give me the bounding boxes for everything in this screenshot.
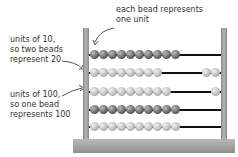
bead <box>126 122 135 131</box>
bead <box>202 68 211 77</box>
bead <box>144 68 153 77</box>
bead <box>135 122 144 131</box>
bead <box>135 50 144 59</box>
bead <box>108 122 117 131</box>
bead <box>162 105 171 114</box>
bead <box>126 105 135 114</box>
bead <box>99 105 108 114</box>
bead <box>90 105 99 114</box>
bead <box>144 87 153 96</box>
bead <box>211 87 220 96</box>
bead <box>126 87 135 96</box>
arrow-icon <box>0 0 238 157</box>
bead <box>144 105 153 114</box>
bead <box>108 105 117 114</box>
bead <box>90 87 99 96</box>
bead <box>162 50 171 59</box>
bead <box>153 87 162 96</box>
bead <box>90 50 99 59</box>
left-post <box>83 28 89 140</box>
bead <box>126 50 135 59</box>
bead <box>211 68 220 77</box>
bead <box>126 68 135 77</box>
bead <box>144 122 153 131</box>
bead <box>108 87 117 96</box>
bead <box>153 105 162 114</box>
bead <box>90 122 99 131</box>
bead <box>144 50 153 59</box>
bead <box>99 68 108 77</box>
bead <box>99 50 108 59</box>
bead <box>117 50 126 59</box>
bead <box>117 122 126 131</box>
bead <box>117 105 126 114</box>
right-post <box>221 28 227 140</box>
bead <box>171 50 180 59</box>
bead <box>162 87 171 96</box>
bead <box>171 122 180 131</box>
bead <box>108 50 117 59</box>
bead <box>135 105 144 114</box>
bead <box>90 68 99 77</box>
bead <box>117 68 126 77</box>
bead <box>171 105 180 114</box>
bead <box>99 87 108 96</box>
bead <box>135 68 144 77</box>
bead <box>162 122 171 131</box>
bead <box>108 68 117 77</box>
bead <box>99 122 108 131</box>
bead <box>135 87 144 96</box>
bead <box>153 122 162 131</box>
bead <box>153 68 162 77</box>
bead <box>153 50 162 59</box>
abacus-base <box>73 139 235 153</box>
bead <box>117 87 126 96</box>
